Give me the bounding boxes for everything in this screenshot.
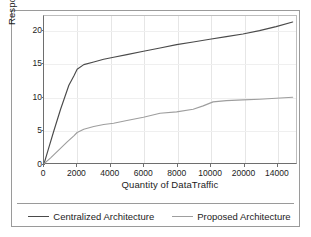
y-axis-tick-label: 20: [20, 25, 42, 35]
legend-divider: [17, 203, 294, 204]
chart-legend: Centralized ArchitectureProposed Archite…: [12, 207, 299, 225]
x-axis-tick-mark: [277, 164, 278, 167]
series-line: [44, 97, 293, 164]
y-axis-tick-label: 10: [20, 92, 42, 102]
x-axis-tick-label: 4000: [100, 168, 119, 178]
legend-entry[interactable]: Proposed Architecture: [172, 211, 290, 222]
x-axis-tick-label: 14000: [265, 168, 289, 178]
x-axis-tick-mark: [210, 164, 211, 167]
x-axis-tick-mark: [143, 164, 144, 167]
x-axis-tick-mark: [76, 164, 77, 167]
y-axis-tick-label: 5: [20, 125, 42, 135]
data-curves: [44, 16, 296, 164]
y-axis-tick-label: 15: [20, 58, 42, 68]
x-axis-tick-group: 02000400060008000100002000014000: [43, 164, 297, 178]
x-axis-tick-label: 0: [41, 168, 46, 178]
y-axis-tick-label: 0: [20, 159, 42, 169]
x-axis-tick-label: 2000: [67, 168, 86, 178]
y-axis-tick-group: 05101520: [20, 15, 42, 164]
x-axis-tick-mark: [177, 164, 178, 167]
y-axis-title: Response Time (ms): [6, 0, 17, 25]
legend-label: Proposed Architecture: [197, 211, 290, 222]
figure-container: Response Time (ms) 05101520 020004000600…: [11, 10, 300, 227]
x-axis-tick-label: 6000: [134, 168, 153, 178]
plot-area: [43, 15, 297, 164]
x-axis-tick-mark: [110, 164, 111, 167]
legend-line-swatch: [172, 216, 193, 217]
series-line: [44, 22, 293, 164]
x-axis-tick-mark: [43, 164, 44, 167]
x-axis-tick-label: 10000: [198, 168, 222, 178]
x-axis-tick-label: 20000: [232, 168, 256, 178]
x-axis-tick-label: 8000: [167, 168, 186, 178]
x-axis-tick-mark: [244, 164, 245, 167]
legend-line-swatch: [28, 216, 49, 217]
x-axis-title: Quantity of DataTraffic: [43, 179, 297, 190]
legend-entry[interactable]: Centralized Architecture: [28, 211, 154, 222]
legend-label: Centralized Architecture: [53, 211, 154, 222]
